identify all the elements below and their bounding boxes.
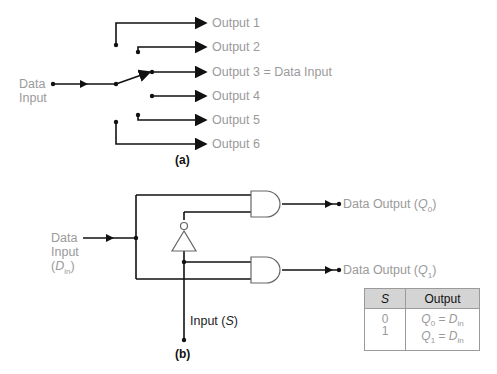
and-gate-0 [251,191,280,217]
output-4-label: Output 4 [212,89,260,103]
data-input-label-a: DataInput [19,77,47,105]
logic-gates [172,191,280,283]
output-2-label: Output 2 [212,40,260,54]
not-gate [172,231,196,251]
truth-table: S Output 01 Q0 = Din Q1 = Din [364,288,480,351]
header-output: Output [406,289,480,309]
inverter-bubble [181,223,188,230]
output-1-label: Output 1 [212,16,260,30]
data-input-label-b: Data Input (Din) [51,231,79,279]
caption-a: (a) [175,153,190,167]
output-3-label: Output 3 = Data Input [212,65,332,79]
caption-b: (b) [175,347,190,361]
header-s: S [365,289,406,309]
part-a-switch [53,23,206,144]
and-gate-1 [251,257,280,283]
data-output-q0-label: Data Output (Q0) [343,197,436,217]
output-6-label: Output 6 [212,137,260,151]
data-output-q1-label: Data Output (Q1) [343,263,436,283]
select-input-label: Input (S) [190,314,238,328]
s-values: 01 [365,309,406,351]
output-5-label: Output 5 [212,113,260,127]
output-values: Q0 = Din Q1 = Din [406,309,480,351]
